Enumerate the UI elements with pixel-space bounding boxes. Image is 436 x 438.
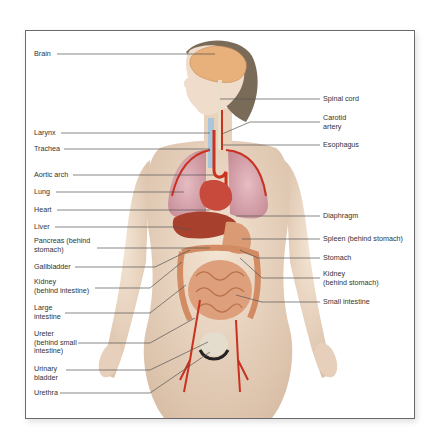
label-large-intestine: Large intestine bbox=[34, 304, 61, 321]
label-brain: Brain bbox=[34, 50, 51, 59]
label-small-intestine: Small intestine bbox=[323, 298, 370, 307]
label-aortic-arch: Aortic arch bbox=[34, 171, 68, 180]
label-stomach: Stomach bbox=[323, 254, 351, 263]
label-trachea: Trachea bbox=[34, 145, 60, 154]
label-spleen: Spleen (behind stomach) bbox=[323, 235, 403, 244]
label-ureter: Ureter (behind small intestine) bbox=[34, 330, 77, 356]
label-urethra: Urethra bbox=[34, 389, 58, 398]
label-larynx: Larynx bbox=[34, 129, 56, 138]
label-lung: Lung bbox=[34, 188, 50, 197]
label-pancreas: Pancreas (behind stomach) bbox=[34, 237, 90, 254]
label-heart: Heart bbox=[34, 206, 52, 215]
label-esophagus: Esophagus bbox=[323, 141, 359, 150]
leader-lines bbox=[0, 0, 436, 438]
label-diaphragm: Diaphragm bbox=[323, 212, 358, 221]
label-gallbladder: Gallbladder bbox=[34, 263, 71, 272]
label-kidney-right: Kidney (behind stomach) bbox=[323, 270, 379, 287]
label-urinary-bladder: Urinary bladder bbox=[34, 365, 58, 382]
label-carotid-artery: Carotid artery bbox=[323, 114, 346, 131]
label-liver: Liver bbox=[34, 223, 50, 232]
label-spinal-cord: Spinal cord bbox=[323, 95, 359, 104]
label-kidney-left: Kidney (behind intestine) bbox=[34, 278, 89, 295]
